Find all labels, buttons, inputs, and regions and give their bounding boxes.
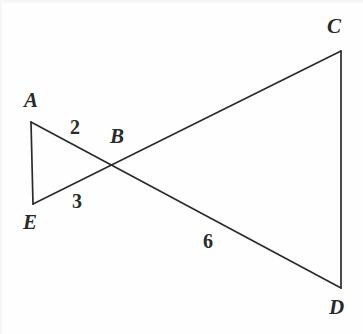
vertex-label-E: E xyxy=(23,212,37,233)
measure-label-3: 3 xyxy=(72,191,82,211)
vertex-label-A: A xyxy=(24,90,38,111)
segment-AE xyxy=(31,122,33,204)
vertex-label-B: B xyxy=(110,126,124,147)
measure-label-2: 2 xyxy=(70,117,80,137)
vertex-label-D: D xyxy=(329,297,344,318)
geometry-figure: A E B C D 2 3 6 xyxy=(0,0,363,334)
vertex-label-C: C xyxy=(327,16,341,37)
diagram-canvas xyxy=(0,0,363,334)
measure-label-6: 6 xyxy=(203,231,213,251)
